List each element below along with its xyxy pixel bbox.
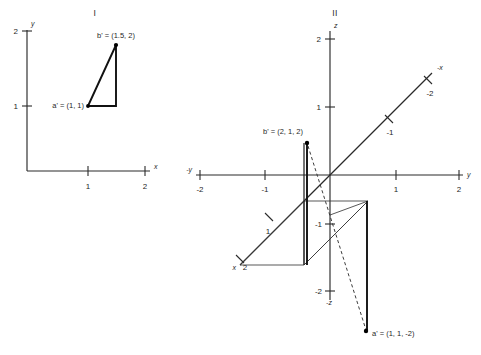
panel-ii-x-neg-axis-label: -x [437, 64, 443, 71]
panel-i-x-tick-label-1: 1 [86, 182, 91, 191]
panel-ii-label-b-prime: b' = (2, 1, 2) [263, 127, 303, 136]
panel-i-x-axis-label: x [153, 163, 158, 170]
panel-ii-z-tick-label-neg1: -1 [315, 220, 323, 229]
panel-i-y-axis-label: y [30, 20, 35, 28]
panel-i-vertex-b-prime [114, 43, 118, 47]
technical-diagram: I y x 2 1 1 2 b' = (1.5, 2) a' = (1, 1) … [0, 0, 481, 355]
panel-ii-group: II y -y z -z -x x -2 -1 1 2 2 1 -1 -2 [186, 8, 471, 338]
panel-i-triangle [88, 45, 116, 106]
panel-ii-y-tick-label-neg1: -1 [261, 185, 269, 194]
panel-ii-y-pos-axis-label: y [466, 171, 471, 179]
panel-i-title: I [94, 8, 97, 18]
panel-i-label-a-prime: a' = (1, 1) [52, 101, 84, 110]
panel-i-x-tick-label-2: 2 [143, 182, 148, 191]
panel-ii-label-a-prime: a' = (1, 1, -2) [372, 329, 415, 338]
panel-ii-x-tick-1 [265, 213, 273, 221]
panel-ii-vertex-a-prime [364, 329, 368, 333]
panel-ii-base-diagonal [304, 201, 368, 265]
panel-i-y-tick-label-2: 2 [14, 27, 19, 36]
panel-i-y-tick-label-1: 1 [14, 102, 19, 111]
panel-ii-y-tick-label-2: 2 [457, 185, 462, 194]
panel-ii-projection-dashed-line [308, 146, 366, 330]
panel-i-group: I y x 2 1 1 2 b' = (1.5, 2) a' = (1, 1) [14, 8, 158, 191]
panel-ii-y-tick-label-1: 1 [394, 185, 399, 194]
panel-ii-title: II [332, 8, 338, 18]
panel-i-label-b-prime: b' = (1.5, 2) [97, 31, 135, 40]
panel-ii-z-tick-label-neg2: -2 [315, 287, 323, 296]
panel-i-vertex-a-prime [86, 104, 90, 108]
panel-ii-x-tick-label-2: 2 [243, 263, 248, 272]
panel-ii-x-tick-label-neg1: -1 [386, 128, 394, 137]
panel-ii-z-tick-label-2: 2 [317, 35, 322, 44]
panel-ii-y-tick-label-neg2: -2 [196, 185, 204, 194]
panel-ii-vertex-b-prime [305, 141, 309, 145]
panel-ii-x-pos-axis-label: x [232, 264, 237, 271]
panel-ii-z-pos-axis-label: z [333, 22, 338, 29]
panel-ii-y-neg-axis-label: -y [186, 166, 192, 174]
panel-ii-x-tick-label-neg2: -2 [426, 89, 434, 98]
panel-ii-z-tick-label-1: 1 [317, 103, 322, 112]
panel-ii-z-neg-axis-label: -z [326, 299, 332, 306]
panel-ii-origin-slant-line [330, 201, 368, 215]
